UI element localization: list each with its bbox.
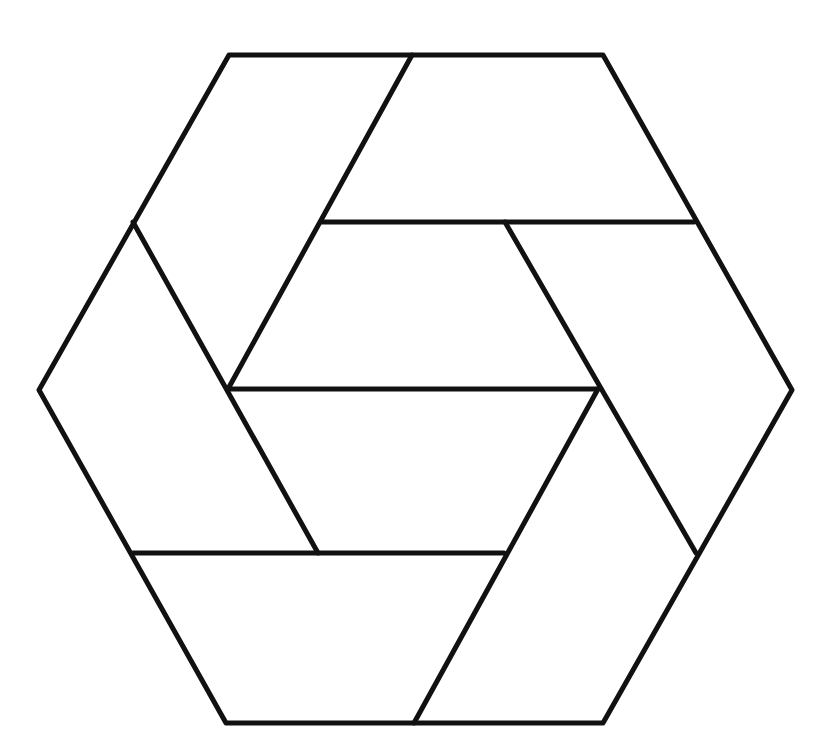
lower-right-diagonal: [414, 389, 598, 723]
hexagon-trapezoid-diagram: [0, 0, 829, 754]
dividing-lines: [133, 55, 696, 723]
